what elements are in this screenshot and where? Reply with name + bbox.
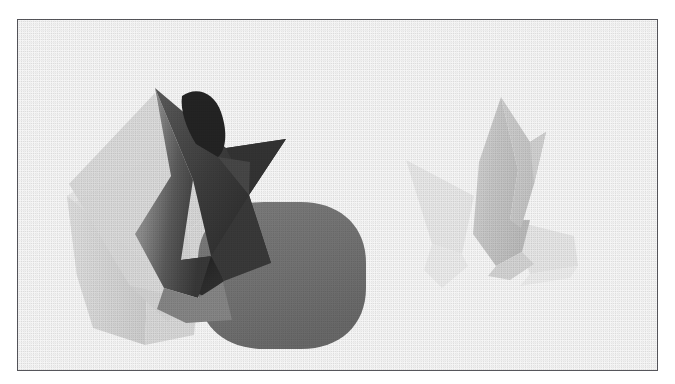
- right-ghost-csg-rendering: [18, 20, 657, 370]
- figure-frame: [17, 19, 658, 371]
- ghost-wing-left-face: [406, 160, 474, 254]
- figure-page: [0, 0, 675, 384]
- figure-caption: [17, 374, 658, 384]
- render-stage: [18, 20, 657, 370]
- ghost-star-left-wing: [406, 160, 474, 288]
